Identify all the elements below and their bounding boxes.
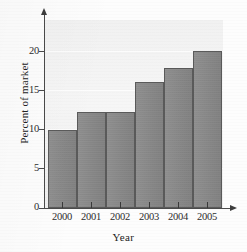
x-tick-mark-2004 xyxy=(178,202,179,208)
y-tick-label-0: 0 xyxy=(11,201,39,212)
y-axis-arrow-icon xyxy=(41,8,47,15)
bar-2005 xyxy=(193,51,222,208)
bar-2004 xyxy=(164,68,193,208)
bar-2002 xyxy=(106,112,135,209)
x-tick-label-2005: 2005 xyxy=(187,211,227,222)
x-axis-title: Year xyxy=(0,231,247,243)
x-tick-mark-2001 xyxy=(91,202,92,208)
y-axis-title: Percent of market xyxy=(18,33,30,173)
x-tick-mark-2005 xyxy=(207,202,208,208)
x-tick-mark-2000 xyxy=(62,202,63,208)
x-axis-line xyxy=(44,208,232,209)
bar-2001 xyxy=(77,112,106,209)
x-axis-arrow-icon xyxy=(230,205,237,211)
bar-2000 xyxy=(48,130,77,209)
bar-2003 xyxy=(135,82,164,208)
y-tick-mark-15 xyxy=(39,90,45,91)
x-tick-mark-2003 xyxy=(149,202,150,208)
y-tick-mark-0 xyxy=(39,208,45,209)
y-tick-mark-5 xyxy=(39,168,45,169)
y-tick-mark-20 xyxy=(39,51,45,52)
y-axis-line xyxy=(44,14,45,209)
y-tick-mark-10 xyxy=(39,129,45,130)
x-tick-mark-2002 xyxy=(120,202,121,208)
bar-chart-figure: 20 15 10 5 0 2000 2001 2002 2003 2004 20… xyxy=(0,0,247,252)
